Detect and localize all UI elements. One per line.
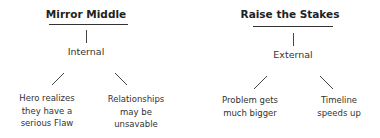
tree-1-right-connector: [115, 73, 127, 85]
connector-lines: [0, 0, 380, 138]
tree-2-left-connector: [254, 76, 267, 89]
tree-1-left-connector: [52, 73, 64, 85]
tree-2-right-connector: [320, 76, 333, 89]
